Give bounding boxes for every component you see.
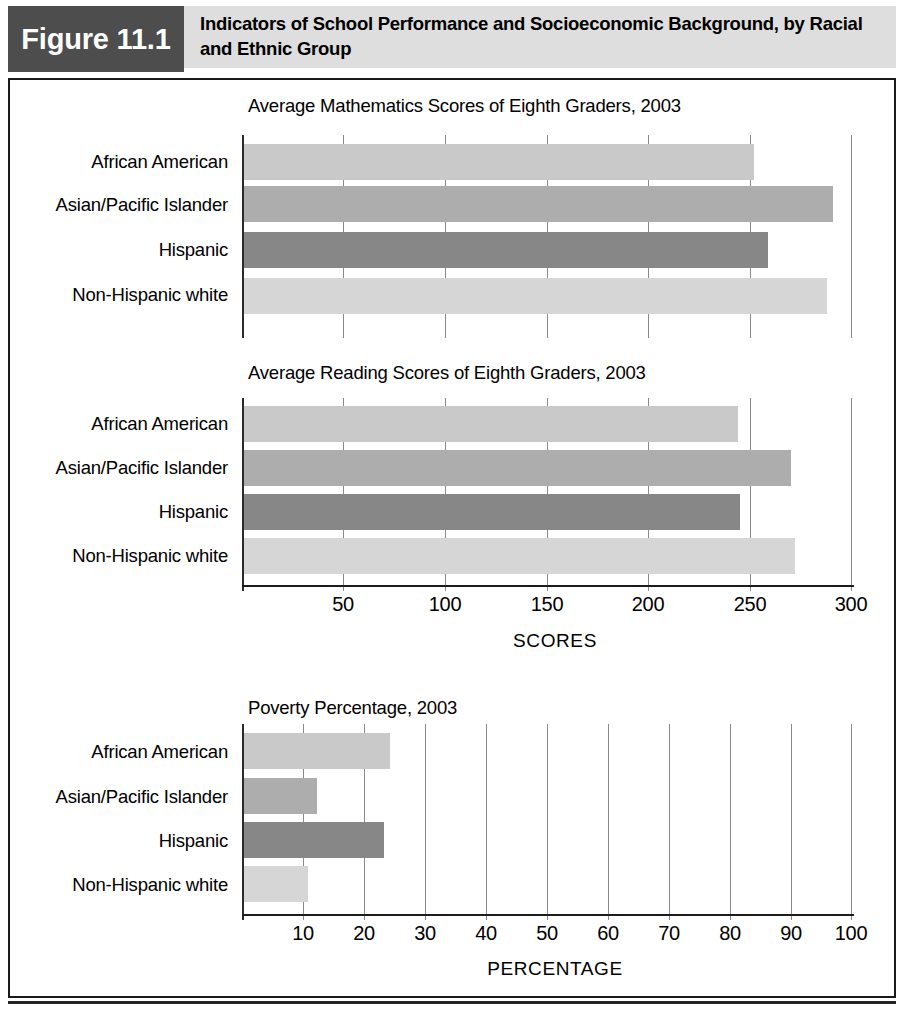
x-tick-label-70: 70 [658,922,680,945]
gridline-40 [486,724,487,920]
category-label-asian-pacific-islander: Asian/Pacific Islander [24,786,228,808]
x-tick-label-100: 100 [835,922,867,945]
bar-non-hispanic-white [244,866,308,902]
gridline-30 [425,724,426,920]
bar-african-american [244,733,390,769]
x-tick-label-40: 40 [475,922,497,945]
x-tick-label-10: 10 [292,922,314,945]
x-tick-label-30: 30 [414,922,436,945]
bar-hispanic [244,822,384,858]
x-tick-label-20: 20 [353,922,375,945]
category-label-hispanic: Hispanic [24,830,228,852]
bar-asian-pacific-islander [244,778,317,814]
gridline-50 [547,724,548,920]
category-label-non-hispanic-white: Non-Hispanic white [24,874,228,896]
x-tick-label-60: 60 [597,922,619,945]
panel-poverty-percentage: Poverty Percentage, 2003 African America… [0,0,904,1016]
gridline-90 [791,724,792,920]
plot-area-poverty [242,724,852,920]
figure-container: Figure 11.1 Indicators of School Perform… [0,0,904,1016]
x-tick-label-90: 90 [780,922,802,945]
category-label-african-american: African American [24,741,228,763]
gridline-60 [608,724,609,920]
gridline-80 [730,724,731,920]
x-tick-label-50: 50 [536,922,558,945]
gridline-100 [851,724,852,920]
panel-title-poverty: Poverty Percentage, 2003 [248,697,457,719]
x-axis-caption-percentage: PERCENTAGE [487,958,623,980]
gridline-70 [669,724,670,920]
x-axis-baseline-percentage [242,914,854,916]
x-tick-label-80: 80 [719,922,741,945]
